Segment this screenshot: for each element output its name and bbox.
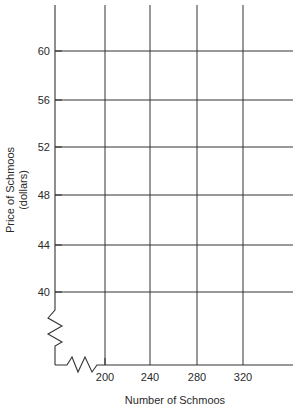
y-tick-56: 56 <box>38 94 50 106</box>
blank-grid-chart: 60 56 52 48 44 40 200 240 280 320 Number… <box>0 0 305 417</box>
y-axis-line <box>48 5 62 365</box>
y-axis-title: Price of Schmoos (dollars) <box>4 146 29 233</box>
y-tick-40: 40 <box>38 286 50 298</box>
x-tick-320: 320 <box>234 371 252 383</box>
x-axis-title: Number of Schmoos <box>125 394 226 406</box>
y-axis-title-line1: Price of Schmoos <box>4 146 16 233</box>
x-axis-line <box>55 357 293 372</box>
axes <box>48 5 293 372</box>
y-tick-44: 44 <box>38 239 50 251</box>
x-tick-labels: 200 240 280 320 <box>96 371 252 383</box>
grid <box>55 5 293 365</box>
x-tick-240: 240 <box>141 371 159 383</box>
y-tick-48: 48 <box>38 189 50 201</box>
y-tick-52: 52 <box>38 141 50 153</box>
y-tick-labels: 60 56 52 48 44 40 <box>38 45 50 298</box>
y-axis-title-line2: (dollars) <box>17 170 29 210</box>
x-tick-200: 200 <box>96 371 114 383</box>
y-tick-60: 60 <box>38 45 50 57</box>
x-tick-280: 280 <box>188 371 206 383</box>
